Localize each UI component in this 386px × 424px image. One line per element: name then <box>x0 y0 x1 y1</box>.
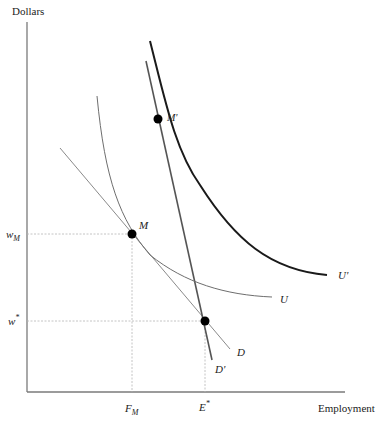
tick-wstar: w* <box>8 313 19 327</box>
indifference-curve-u <box>97 96 272 297</box>
tick-fm: FM <box>124 402 140 417</box>
label-d: D <box>236 346 245 358</box>
label-m: M <box>138 219 149 231</box>
label-m-prime: M' <box>166 112 178 123</box>
point-m-prime <box>154 115 163 124</box>
label-u: U <box>280 293 289 305</box>
y-axis-label: Dollars <box>12 5 44 17</box>
label-u-prime: U' <box>338 269 349 281</box>
demand-curve-d-prime <box>146 61 212 360</box>
label-d-prime: D' <box>214 363 226 375</box>
indifference-curve-u-prime <box>150 41 327 275</box>
tick-estar: E* <box>198 399 210 413</box>
point-estar <box>201 317 210 326</box>
point-m <box>128 230 137 239</box>
labor-market-diagram: Dollars Employment wM w* FM E* M M' D D'… <box>0 0 386 424</box>
tick-wm: wM <box>6 228 21 243</box>
x-axis-label: Employment <box>318 402 375 414</box>
